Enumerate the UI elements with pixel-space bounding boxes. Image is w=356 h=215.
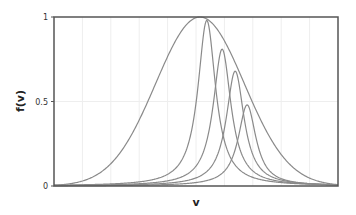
y-axis-label: f(v) <box>14 90 27 112</box>
y-ticks: 00.51 <box>35 13 54 191</box>
x-axis-label: v <box>192 196 200 209</box>
y-tick-label: 0 <box>43 182 48 191</box>
y-tick-label: 0.5 <box>35 98 48 107</box>
chart: 00.51 f(v) v <box>0 0 356 215</box>
y-tick-label: 1 <box>43 13 48 22</box>
